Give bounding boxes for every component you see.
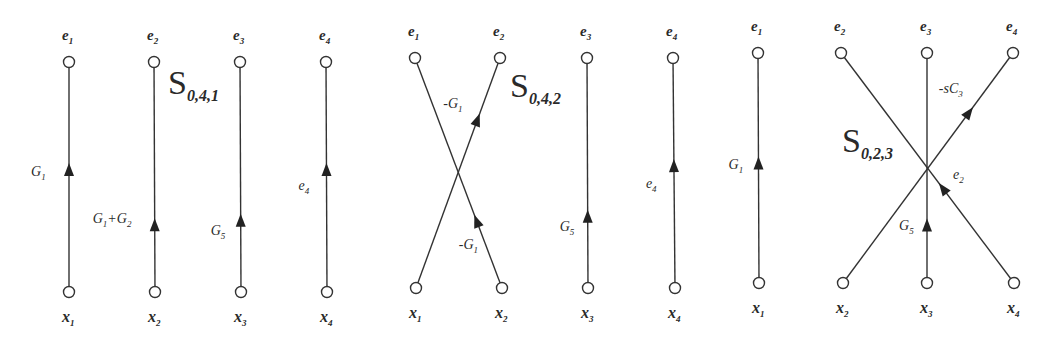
diagram-S023: G1-sC3G5e2e1e2e3e4x1x2x3x4S0,2,3 [729, 18, 1021, 319]
arrowhead-icon [470, 213, 484, 229]
node-x1: x1 [408, 283, 422, 325]
node-e4: e4 [666, 23, 679, 64]
branch-gain-label: e4 [646, 176, 657, 194]
node-label: x3 [580, 304, 594, 324]
node-circle [1009, 278, 1020, 289]
node-x1: x1 [751, 278, 765, 320]
node-label: x4 [1006, 299, 1020, 319]
node-e2: e2 [147, 27, 160, 68]
branch-line [326, 62, 327, 292]
node-circle [150, 287, 161, 298]
node-x4: x4 [667, 283, 681, 325]
node-circle [495, 53, 506, 64]
node-circle [754, 278, 765, 289]
node-label: e3 [920, 18, 932, 37]
branch-gain-label: G1+G2 [93, 211, 132, 229]
node-e1: e1 [751, 18, 764, 59]
arrowhead-icon [150, 218, 160, 231]
node-label: x1 [751, 299, 765, 319]
diagram-S042: -G1-G1G5e4e1e2e3e4x1x2x3x4S0,4,2 [408, 23, 681, 324]
node-x2: x2 [147, 287, 161, 329]
node-e3: e3 [580, 23, 593, 64]
branch-line [587, 58, 588, 288]
node-circle [670, 283, 681, 294]
branch-x3-to-e3: G5 [560, 58, 593, 288]
node-e1: e1 [408, 23, 421, 64]
node-x3: x3 [233, 287, 247, 329]
arrowhead-icon [935, 180, 951, 196]
arrowhead-icon [922, 219, 932, 232]
node-e3: e3 [233, 27, 246, 68]
arrowhead-icon [669, 159, 679, 172]
node-circle [753, 48, 764, 59]
signal-flow-diagram: G1G1+G2G5e4e1e2e3e4x1x2x3x4S0,4,1-G1-G1G… [0, 0, 1062, 341]
node-circle [838, 278, 849, 289]
arrowhead-icon [236, 214, 246, 227]
node-e4: e4 [1006, 18, 1019, 59]
node-circle [582, 53, 593, 64]
branch-gain-label: -sC3 [939, 81, 963, 99]
node-circle [149, 57, 160, 68]
branch-line [240, 62, 241, 292]
branch-gain-label: G5 [560, 219, 575, 237]
branch-x4-to-e4: e4 [646, 58, 679, 288]
node-label: x1 [408, 304, 422, 324]
node-circle [922, 278, 933, 289]
subgraph-title: S0,4,2 [510, 67, 561, 107]
branch-gain-label: e2 [953, 167, 964, 185]
subgraph-title: S0,4,1 [168, 64, 219, 104]
arrowhead-icon [753, 156, 763, 169]
branch-gain-label: G1 [31, 164, 46, 182]
node-e2: e2 [834, 18, 847, 59]
branch-gain-label: -G1 [459, 237, 478, 255]
node-label: e2 [147, 27, 159, 46]
node-circle [668, 53, 679, 64]
branch-x1-to-e1: G1 [729, 53, 764, 283]
diagram-S041: G1G1+G2G5e4e1e2e3e4x1x2x3x4S0,4,1 [31, 27, 333, 328]
node-label: e4 [666, 23, 678, 42]
node-e1: e1 [62, 27, 75, 68]
branch-gain-label: G5 [211, 223, 226, 241]
node-e3: e3 [920, 18, 933, 59]
node-x2: x2 [835, 278, 849, 320]
node-e2: e2 [493, 23, 506, 64]
node-x2: x2 [494, 283, 508, 325]
branch-line [673, 58, 675, 288]
node-circle [922, 48, 933, 59]
node-circle [322, 287, 333, 298]
node-circle [64, 57, 75, 68]
node-label: e1 [62, 27, 73, 46]
node-label: x1 [61, 308, 75, 328]
node-circle [236, 287, 247, 298]
subgraph-title: S0,2,3 [842, 122, 893, 162]
arrowhead-icon [471, 112, 485, 128]
node-label: x2 [835, 299, 849, 319]
node-label: e1 [408, 23, 419, 42]
node-circle [583, 283, 594, 294]
node-x3: x3 [580, 283, 594, 325]
node-label: x3 [233, 308, 247, 328]
node-x4: x4 [319, 287, 333, 329]
node-x4: x4 [1006, 278, 1020, 320]
branch-x4-to-e4: e4 [299, 62, 332, 292]
node-label: e1 [751, 18, 762, 37]
node-label: x2 [494, 304, 508, 324]
arrowhead-icon [321, 163, 331, 176]
node-label: x4 [667, 304, 681, 324]
node-label: e2 [493, 23, 505, 42]
branch-gain-label: G1 [729, 157, 744, 175]
node-circle [1008, 48, 1019, 59]
node-label: x3 [919, 299, 933, 319]
arrowhead-icon [64, 163, 74, 176]
branch-x2-to-e2: G1+G2 [93, 62, 160, 292]
node-label: x4 [319, 308, 333, 328]
node-circle [836, 48, 847, 59]
arrowhead-icon [961, 104, 977, 120]
node-label: e3 [580, 23, 592, 42]
node-circle [235, 57, 246, 68]
branch-x1-to-e1: G1 [31, 62, 74, 292]
node-x1: x1 [61, 287, 75, 329]
arrowhead-icon [583, 210, 593, 223]
node-circle [321, 57, 332, 68]
branch-gain-label: e4 [299, 178, 310, 196]
